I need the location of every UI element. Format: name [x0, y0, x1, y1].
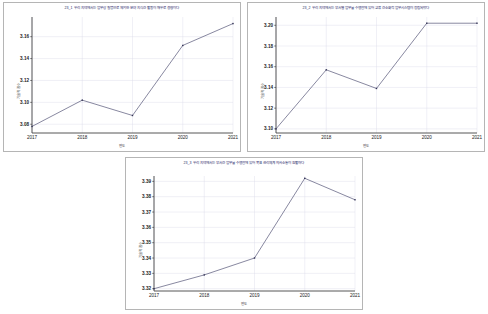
svg-text:3.18: 3.18 — [264, 44, 273, 49]
chart-1-x-axis-label: 연도 — [4, 143, 240, 148]
chart-panel-1: 23_1 우리 지역에서는 업무상 질병으로 제외한 분야 지식간 활동이 매우… — [3, 2, 241, 152]
svg-text:3.16: 3.16 — [264, 64, 273, 69]
svg-text:2020: 2020 — [422, 135, 433, 140]
svg-text:3.08: 3.08 — [20, 122, 29, 127]
svg-text:2021: 2021 — [472, 135, 483, 140]
chart-1-svg: 3.083.103.123.143.1620172018201920202021 — [4, 3, 242, 153]
chart-3-y-axis-label: 기술적 점수 — [138, 242, 143, 258]
svg-text:3.14: 3.14 — [264, 85, 273, 90]
svg-text:2018: 2018 — [77, 135, 88, 140]
svg-text:2018: 2018 — [199, 293, 210, 298]
svg-text:2017: 2017 — [149, 293, 160, 298]
chart-1-y-axis-label: 기술적 점수 — [16, 83, 21, 99]
svg-text:3.34: 3.34 — [142, 256, 151, 261]
svg-text:3.39: 3.39 — [142, 179, 151, 184]
svg-text:3.33: 3.33 — [142, 271, 151, 276]
chart-2-plot-area: 3.103.123.143.163.183.202017201820192020… — [248, 3, 484, 151]
chart-panel-3: 23_3 우리 지역에서는 부서간 업무를 수행함에 있어 목표 관리체계 의사… — [125, 157, 363, 310]
chart-2-svg: 3.103.123.143.163.183.202017201820192020… — [248, 3, 486, 153]
svg-text:3.10: 3.10 — [264, 126, 273, 131]
svg-text:2021: 2021 — [228, 135, 239, 140]
svg-text:3.35: 3.35 — [142, 240, 151, 245]
svg-text:3.32: 3.32 — [142, 286, 151, 291]
chart-3-plot-area: 3.323.333.343.353.363.373.383.3920172018… — [126, 158, 362, 309]
chart-3-x-axis-label: 연도 — [126, 301, 362, 306]
chart-2-x-axis-label: 연도 — [248, 143, 484, 148]
svg-text:2017: 2017 — [271, 135, 282, 140]
svg-text:3.14: 3.14 — [20, 56, 29, 61]
svg-text:3.37: 3.37 — [142, 210, 151, 215]
svg-text:3.10: 3.10 — [20, 100, 29, 105]
svg-text:2021: 2021 — [350, 293, 361, 298]
svg-text:3.16: 3.16 — [20, 34, 29, 39]
chart-1-plot-area: 3.083.103.123.143.1620172018201920202021… — [4, 3, 240, 151]
svg-text:2019: 2019 — [127, 135, 138, 140]
svg-text:3.38: 3.38 — [142, 194, 151, 199]
svg-text:2017: 2017 — [27, 135, 38, 140]
svg-text:2019: 2019 — [371, 135, 382, 140]
svg-text:2020: 2020 — [300, 293, 311, 298]
svg-text:2018: 2018 — [321, 135, 332, 140]
chart-3-svg: 3.323.333.343.353.363.373.383.3920172018… — [126, 158, 364, 311]
chart-panel-2: 23_2 우리 지역에서는 부서별 업무를 수행함에 있어 교류 간소화적 업무… — [247, 2, 485, 152]
svg-text:3.12: 3.12 — [264, 106, 273, 111]
svg-text:3.20: 3.20 — [264, 23, 273, 28]
svg-text:2019: 2019 — [249, 293, 260, 298]
svg-text:3.12: 3.12 — [20, 78, 29, 83]
svg-text:2020: 2020 — [178, 135, 189, 140]
svg-text:3.36: 3.36 — [142, 225, 151, 230]
chart-2-y-axis-label: 기술적 점수 — [260, 83, 265, 99]
